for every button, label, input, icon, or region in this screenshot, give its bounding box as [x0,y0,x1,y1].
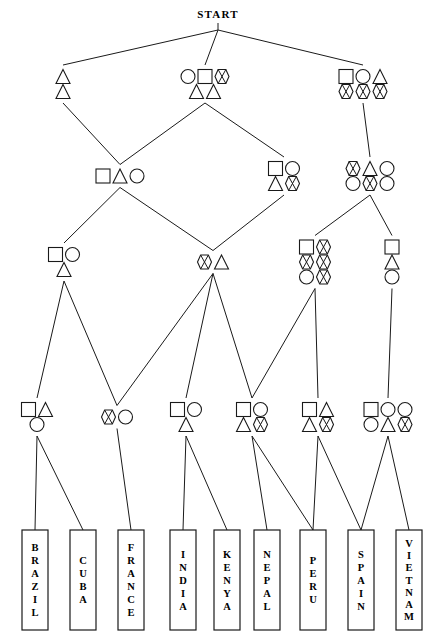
leaf-vietnam[interactable]: VIETNAM [396,530,422,630]
leaf-letter: P [310,555,317,566]
shape-triangle [215,255,229,269]
edge-L4B-france [117,429,131,531]
edge-L3C-L4E [315,289,318,399]
shape-square [96,169,110,183]
node-L3C[interactable] [300,240,331,284]
node-L1A[interactable] [56,70,70,99]
leaves-layer: BRAZILCUBAFRANCEINDIAKENYANEPALPERUSPAIN… [22,530,422,630]
node-L4C[interactable] [171,403,202,432]
node-L3A[interactable] [49,248,80,277]
shape-circle [364,418,378,432]
leaf-letter: I [33,594,37,605]
node-L4A[interactable] [22,403,53,432]
leaf-box[interactable] [300,530,326,630]
leaf-india[interactable]: INDIA [170,530,196,630]
leaf-box[interactable] [70,530,96,630]
shape-bowtie [363,177,377,191]
leaf-letter: U [309,594,317,605]
hierarchy-diagram: BRAZILCUBAFRANCEINDIAKENYANEPALPERUSPAIN… [0,0,436,640]
edge-start-L1A [63,30,218,65]
shape-bowtie [346,162,360,176]
leaf-letter: N [127,581,135,592]
leaf-letter: S [358,549,364,560]
leaf-letter: B [79,581,86,592]
node-L3B[interactable] [198,255,229,269]
leaf-spain[interactable]: SPAIN [348,530,374,630]
leaf-letter: I [181,588,185,599]
shape-triangle [207,85,221,99]
edge-L1A-L2A [63,103,120,165]
leaf-letter: C [79,555,87,566]
leaf-peru[interactable]: PERU [300,530,326,630]
shape-bowtie [356,85,370,99]
leaf-nepal[interactable]: NEPAL [254,530,280,630]
edge-L4F-spain [361,436,388,530]
shape-bowtie [286,177,300,191]
node-L2A[interactable] [96,169,144,183]
shape-bowtie [198,255,212,269]
leaf-france[interactable]: FRANCE [118,530,144,630]
leaf-letter: K [223,549,232,560]
shape-bowtie [317,240,331,254]
leaf-kenya[interactable]: KENYA [214,530,240,630]
shape-circle [398,403,412,417]
leaf-letter: N [405,587,413,598]
shape-triangle [385,255,399,269]
leaf-letter: L [31,607,38,618]
edge-L3C-L4D [252,289,315,399]
leaf-cuba[interactable]: CUBA [70,530,96,630]
leaf-brazil[interactable]: BRAZIL [22,530,48,630]
edge-L4C-kenya [186,436,227,530]
leaf-letter: I [181,549,185,560]
edge-L2A-L3B [120,188,213,251]
shape-square [49,248,63,262]
node-L4D[interactable] [237,403,268,432]
shape-square [385,240,399,254]
leaf-letter: N [223,575,231,586]
shape-triangle [363,162,377,176]
shape-bowtie [317,270,331,284]
leaf-letter: M [404,611,414,622]
edge-L1B-L2B [205,103,284,157]
diagram-canvas: BRAZILCUBAFRANCEINDIAKENYANEPALPERUSPAIN… [0,0,436,640]
node-L1B[interactable] [181,70,229,99]
shape-bowtie [320,418,334,432]
nodes-layer [22,70,413,432]
edge-L2C-L3C [315,195,370,236]
shape-circle [254,403,268,417]
edge-start-L1B [205,30,218,65]
node-L4E[interactable] [303,403,334,432]
shape-square [269,162,283,176]
leaf-letter: A [179,601,187,612]
node-L4B[interactable] [102,410,133,424]
shape-circle [286,162,300,176]
node-L2C[interactable] [346,162,394,191]
node-L4F[interactable] [364,403,412,432]
edge-L1B-L2A [120,103,205,165]
leaf-letter: A [263,588,271,599]
shape-bowtie [300,255,314,269]
edge-L4D-nepal [252,436,267,530]
leaf-letter: P [358,562,365,573]
edge-L3B-L4D [213,274,252,399]
edge-L2B-L3B [213,195,284,251]
edge-L3D-L4F [388,289,392,399]
shape-circle [30,418,44,432]
node-L2B[interactable] [269,162,300,191]
shape-circle [181,70,195,84]
edge-L4E-spain [318,436,361,530]
edge-L4A-brazil [35,436,37,530]
shape-circle [356,70,370,84]
node-L3D[interactable] [385,240,399,284]
leaf-letter: I [359,588,363,599]
start-label: START [197,8,238,20]
leaf-letter: D [179,575,187,586]
leaf-letter: E [223,562,230,573]
leaf-letter: I [407,550,411,561]
shape-circle [380,162,394,176]
shape-circle [346,177,360,191]
leaf-letter: B [31,542,38,553]
labels-layer: START [197,8,238,30]
node-L1C[interactable] [339,70,387,99]
leaf-letter: L [263,601,270,612]
